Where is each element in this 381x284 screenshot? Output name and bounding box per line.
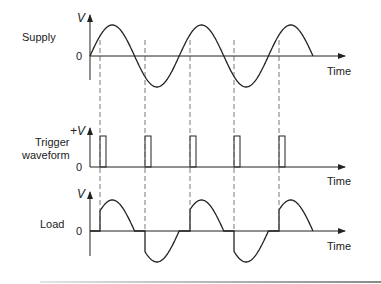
load-time-label: Time: [327, 240, 351, 252]
supply-label: Supply: [22, 31, 56, 43]
footer-rule: [40, 281, 381, 283]
trigger-zero-label: 0: [76, 161, 82, 173]
trigger-panel: Trigger waveform +V 0 Time: [21, 124, 351, 187]
trigger-label-line1: Trigger: [35, 136, 70, 148]
trigger-pulse: [190, 136, 196, 167]
load-panel: Load V 0 Time: [40, 187, 351, 262]
supply-y-axis-label: V: [77, 11, 86, 25]
waveform-diagram: Supply V 0 Time Trigger waveform +V 0 Ti…: [0, 0, 381, 284]
load-label: Load: [40, 218, 64, 230]
trigger-time-label: Time: [327, 175, 351, 187]
trigger-y-axis-label: +V: [70, 124, 86, 138]
supply-zero-label: 0: [76, 50, 82, 62]
trigger-pulse: [234, 136, 240, 167]
supply-time-label: Time: [327, 65, 351, 77]
trigger-label-line2: waveform: [21, 149, 70, 161]
trigger-pulses: [100, 136, 285, 167]
trigger-pulse: [279, 136, 285, 167]
trigger-pulse: [100, 136, 106, 167]
supply-panel: Supply V 0 Time: [22, 11, 351, 87]
load-zero-label: 0: [76, 225, 82, 237]
load-y-axis-label: V: [77, 187, 86, 201]
trigger-pulse: [145, 136, 151, 167]
